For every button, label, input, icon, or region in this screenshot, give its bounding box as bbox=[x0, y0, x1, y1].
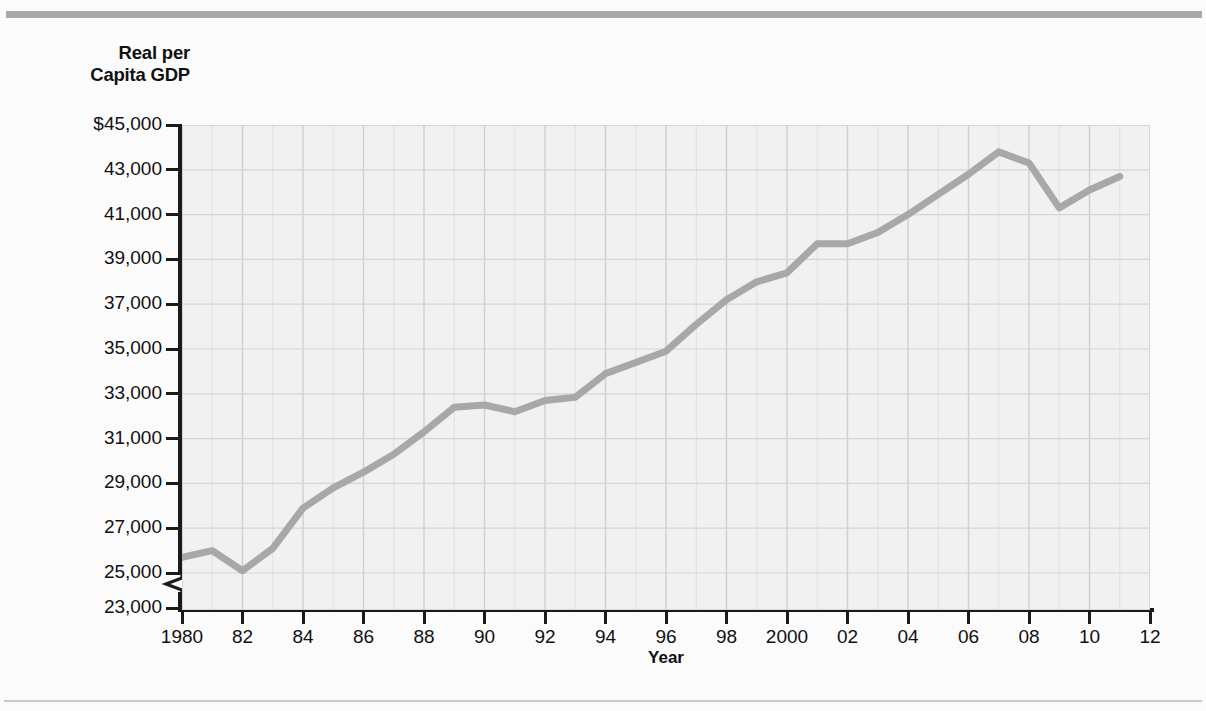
x-axis-tick-label: 96 bbox=[655, 626, 676, 648]
y-axis-tick bbox=[166, 213, 182, 216]
x-axis-tick bbox=[302, 610, 305, 624]
y-axis-tick bbox=[166, 527, 182, 530]
x-axis-tick-label: 04 bbox=[897, 626, 918, 648]
plot-area bbox=[182, 125, 1150, 610]
x-axis-tick bbox=[181, 610, 184, 624]
x-axis-title: Year bbox=[182, 648, 1150, 668]
y-axis-tick bbox=[166, 572, 182, 575]
x-axis-tick-label: 86 bbox=[353, 626, 374, 648]
y-axis-tick bbox=[166, 437, 182, 440]
x-axis-tick-label: 12 bbox=[1139, 626, 1160, 648]
x-axis-tick bbox=[725, 610, 728, 624]
x-axis-tick-label: 10 bbox=[1079, 626, 1100, 648]
y-axis-tick-label: 23,000 bbox=[42, 596, 162, 618]
y-axis-tick bbox=[166, 392, 182, 395]
top-divider-rule bbox=[6, 11, 1202, 18]
x-axis-tick-label: 08 bbox=[1018, 626, 1039, 648]
x-axis-tick-label: 1980 bbox=[161, 626, 203, 648]
y-axis-tick-label: 39,000 bbox=[42, 247, 162, 269]
y-axis-tick bbox=[166, 348, 182, 351]
x-axis-tick bbox=[846, 610, 849, 624]
x-axis-tick bbox=[483, 610, 486, 624]
x-axis-tick bbox=[786, 610, 789, 624]
y-axis-tick bbox=[166, 482, 182, 485]
y-axis-tick-label: 27,000 bbox=[42, 516, 162, 538]
y-axis-tick bbox=[166, 124, 182, 127]
x-axis-tick bbox=[423, 610, 426, 624]
y-axis-tick-label: 43,000 bbox=[42, 158, 162, 180]
x-axis-tick-label: 98 bbox=[716, 626, 737, 648]
x-axis-tick-label: 92 bbox=[534, 626, 555, 648]
x-axis-tick-label: 82 bbox=[232, 626, 253, 648]
y-axis-tick-label: 33,000 bbox=[42, 382, 162, 404]
data-series-line bbox=[182, 125, 1150, 610]
y-axis-tick bbox=[166, 303, 182, 306]
x-axis-tick bbox=[362, 610, 365, 624]
x-axis-tick bbox=[967, 610, 970, 624]
y-axis-tick-label: 35,000 bbox=[42, 337, 162, 359]
x-axis-tick bbox=[1088, 610, 1091, 624]
x-axis-tick-label: 94 bbox=[595, 626, 616, 648]
y-axis-tick-labels: $45,00043,00041,00039,00037,00035,00033,… bbox=[40, 0, 162, 711]
y-axis-tick-label: 31,000 bbox=[42, 427, 162, 449]
x-axis-tick bbox=[665, 610, 668, 624]
x-axis-tick bbox=[1028, 610, 1031, 624]
figure: Real per Capita GDP $45,00043,00041,0003… bbox=[0, 0, 1206, 711]
x-axis-tick bbox=[241, 610, 244, 624]
y-axis-tick-label: 37,000 bbox=[42, 292, 162, 314]
y-axis-tick bbox=[166, 258, 182, 261]
x-axis-tick-label: 84 bbox=[292, 626, 313, 648]
y-axis-tick-label: 25,000 bbox=[42, 561, 162, 583]
y-axis-tick-label: 29,000 bbox=[42, 471, 162, 493]
y-axis-tick bbox=[166, 168, 182, 171]
x-axis-tick-label: 88 bbox=[413, 626, 434, 648]
x-axis-tick bbox=[1149, 610, 1152, 624]
series-gdp-line bbox=[182, 152, 1120, 571]
y-axis-tick-label: $45,000 bbox=[42, 113, 162, 135]
x-axis-tick bbox=[604, 610, 607, 624]
x-axis-tick-label: 90 bbox=[474, 626, 495, 648]
x-axis-tick bbox=[544, 610, 547, 624]
y-axis-tick-label: 41,000 bbox=[42, 203, 162, 225]
x-axis-tick-label: 06 bbox=[958, 626, 979, 648]
bottom-divider-rule bbox=[4, 700, 1202, 702]
x-axis-tick-label: 02 bbox=[837, 626, 858, 648]
x-axis-tick-label: 2000 bbox=[766, 626, 808, 648]
x-axis-tick bbox=[907, 610, 910, 624]
